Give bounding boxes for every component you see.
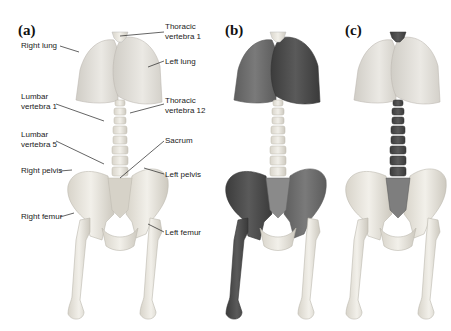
anatomy-figure [0,0,451,331]
label-left-pelvis: Left pelvis [165,170,201,180]
label-thoracic-vertebra-12: Thoracic vertebra 12 [165,96,205,116]
skeleton-model-b [226,32,327,319]
skeleton-model-a [68,32,169,319]
label-sacrum: Sacrum [165,136,193,146]
label-right-femur: Right femur [21,212,62,222]
label-lumbar-vertebra-5: Lumbar vertebra 5 [21,130,57,150]
label-thoracic-vertebra-1: Thoracic vertebra 1 [165,22,201,42]
label-left-femur: Left femur [165,228,201,238]
label-left-lung: Left lung [165,57,196,67]
label-right-pelvis: Right pelvis [21,166,62,176]
label-lumbar-vertebra-1: Lumbar vertebra 1 [21,92,57,112]
skeleton-model-c [346,32,447,319]
label-right-lung: Right lung [21,41,57,51]
